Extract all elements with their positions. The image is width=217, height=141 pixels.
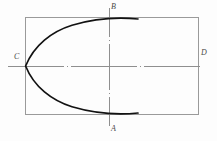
vertex-label-b: B bbox=[111, 3, 116, 11]
vertex-label-c: C bbox=[14, 53, 19, 61]
vertex-label-a: A bbox=[111, 125, 116, 133]
technical-drawing-figure: B A C D bbox=[0, 0, 217, 141]
drawing-canvas bbox=[0, 0, 217, 141]
vertex-label-d: D bbox=[201, 49, 207, 57]
